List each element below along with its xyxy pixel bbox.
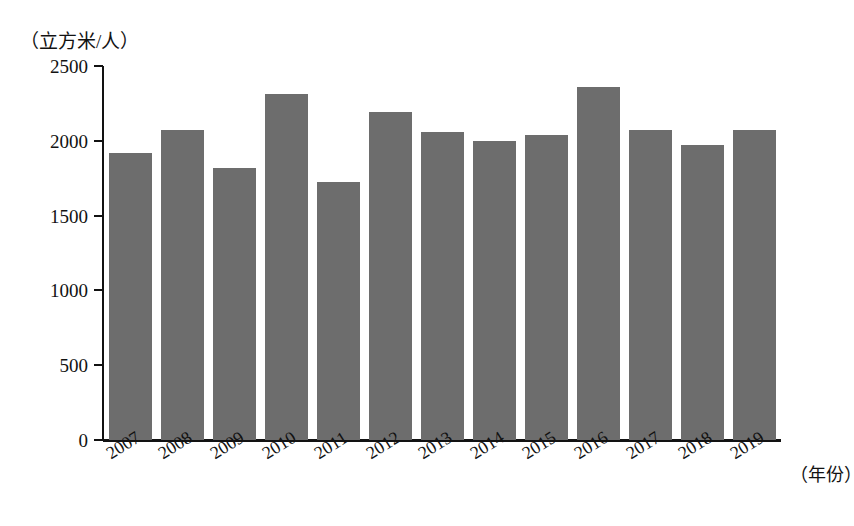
y-axis-tick-label: 1500 bbox=[6, 207, 88, 226]
y-axis-tick bbox=[94, 65, 103, 67]
y-axis-tick bbox=[94, 439, 103, 441]
y-axis-tick bbox=[94, 140, 103, 142]
y-axis-tick-label: 500 bbox=[6, 356, 88, 375]
plot-area bbox=[103, 66, 780, 440]
y-axis-tick-label: 2500 bbox=[6, 57, 88, 76]
y-axis-tick-label: 1000 bbox=[6, 281, 88, 300]
bar bbox=[369, 112, 412, 440]
y-axis-tick-label: 2000 bbox=[6, 132, 88, 151]
bar bbox=[265, 94, 308, 440]
bar bbox=[681, 145, 724, 440]
x-axis-unit-label: （年份） bbox=[790, 460, 854, 486]
bar bbox=[213, 168, 256, 440]
y-axis-tick-label: 0 bbox=[6, 431, 88, 450]
bar bbox=[109, 153, 152, 440]
bar bbox=[421, 132, 464, 440]
y-axis-unit-label: （立方米/人） bbox=[20, 26, 139, 53]
bar bbox=[525, 135, 568, 440]
bar bbox=[317, 182, 360, 440]
y-axis-tick bbox=[94, 215, 103, 217]
bar bbox=[161, 130, 204, 440]
y-axis-tick bbox=[94, 289, 103, 291]
y-axis-tick bbox=[94, 364, 103, 366]
bar bbox=[473, 141, 516, 440]
bar bbox=[629, 130, 672, 440]
bar-chart: （立方米/人） 05001000150020002500 20072008200… bbox=[0, 0, 854, 526]
bar bbox=[577, 87, 620, 440]
bar bbox=[733, 130, 776, 440]
